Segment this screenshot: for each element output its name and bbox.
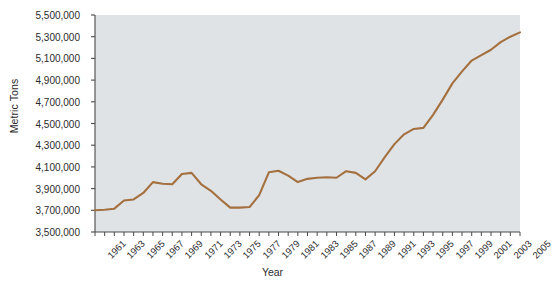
cropped-caption-strip xyxy=(0,281,545,291)
x-axis-title: Year xyxy=(0,266,545,278)
y-axis-ticks xyxy=(91,15,95,232)
x-axis-ticks xyxy=(95,232,520,236)
plot-background xyxy=(95,15,520,232)
